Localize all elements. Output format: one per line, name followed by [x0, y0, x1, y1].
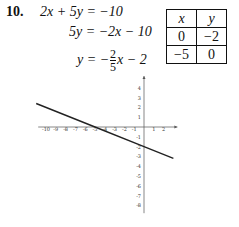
y-tick-label: -4 [136, 163, 141, 169]
x-tick-label: 1 [152, 126, 155, 132]
x-tick-label: -6 [83, 126, 88, 132]
x-tick-label: -1 [132, 126, 137, 132]
tick-labels: -10-9-8-7-6-5-4-3-2-1124321-1-2-3-4-5-6-… [42, 85, 165, 209]
y-tick-label: -3 [136, 153, 141, 159]
x-tick-label: -3 [112, 126, 117, 132]
y-tick-label: -7 [136, 193, 141, 199]
x-axis-arrow-icon [174, 126, 177, 129]
x-tick-label: -7 [73, 126, 78, 132]
y-tick-label: 4 [138, 85, 141, 91]
x-tick-label: -9 [53, 126, 58, 132]
coordinate-graph: -10-9-8-7-6-5-4-3-2-1124321-1-2-3-4-5-6-… [0, 0, 239, 227]
y-tick-label: 1 [138, 114, 141, 120]
x-tick-label: 2 [162, 126, 165, 132]
y-tick-label: -6 [136, 183, 141, 189]
axes [38, 76, 177, 213]
y-tick-label: -5 [136, 173, 141, 179]
y-tick-label: -1 [136, 134, 141, 140]
x-tick-label: -8 [63, 126, 68, 132]
x-tick-label: -2 [122, 126, 127, 132]
y-tick-label: 2 [138, 104, 141, 110]
y-axis-arrow-icon [143, 76, 146, 79]
y-tick-label: -8 [136, 202, 141, 208]
x-tick-label: -10 [42, 126, 50, 132]
y-tick-label: 3 [138, 95, 141, 101]
